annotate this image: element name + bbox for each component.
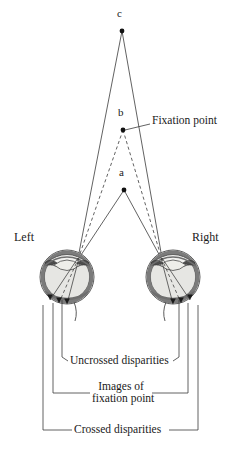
bracket-crossed-right	[169, 305, 198, 430]
ray-a-to-left-eye	[79, 190, 124, 258]
bracket-uncrossed-disparities	[62, 300, 179, 361]
bracket-label-crossed-disparities: Crossed disparities	[74, 423, 161, 435]
fixation-point-leader-line	[125, 124, 150, 130]
left-eye	[40, 250, 94, 321]
images-of-line1: Images of	[98, 380, 144, 392]
point-b-dot	[121, 128, 126, 133]
bracket-label-images-of-fixation-point: Images of fixation point	[92, 380, 150, 404]
bracket-uncrossed-right	[173, 300, 179, 361]
left-eye-optic-nerve	[74, 302, 76, 321]
bracket-fixation-right	[152, 303, 188, 393]
ray-b-to-right-eye	[123, 130, 162, 258]
point-label-c: c	[117, 8, 122, 20]
images-of-line2: fixation point	[92, 392, 154, 404]
right-eye	[146, 250, 200, 321]
binocular-disparity-figure: c b a Fixation point Left Right Uncrosse…	[0, 0, 241, 451]
rays-from-b	[79, 130, 162, 258]
bracket-uncrossed-left	[62, 300, 68, 361]
bracket-fixation-left	[53, 303, 90, 393]
point-label-b: b	[118, 107, 124, 119]
right-eye-optic-nerve	[164, 302, 166, 321]
bracket-crossed-left	[43, 305, 72, 430]
ray-b-to-left-eye	[79, 130, 124, 258]
point-label-a: a	[119, 167, 124, 179]
ray-c-to-left-eye	[78, 31, 122, 258]
rays-from-a	[79, 190, 161, 258]
bracket-label-uncrossed-disparities: Uncrossed disparities	[70, 354, 169, 366]
fixation-point-callout-label: Fixation point	[152, 114, 217, 126]
eye-label-right: Right	[192, 231, 219, 244]
bracket-crossed-disparities	[43, 305, 198, 430]
point-c-dot	[120, 29, 125, 34]
ray-a-to-right-eye	[124, 190, 161, 258]
point-a-dot	[122, 188, 127, 193]
ray-c-to-right-eye	[122, 31, 162, 258]
eye-label-left: Left	[14, 231, 34, 244]
